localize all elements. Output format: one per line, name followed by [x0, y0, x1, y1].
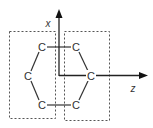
- z-axis-arrowhead-icon: [139, 72, 148, 79]
- benzene-axes-diagram: C C C C C C x z: [0, 0, 153, 128]
- bond-top-right: [79, 52, 88, 71]
- atom-c-right: C: [87, 70, 95, 82]
- bond-bottom-left: [31, 81, 39, 100]
- bond-top-left: [31, 52, 39, 71]
- atom-c-top-right: C: [72, 41, 80, 53]
- atom-c-top-left: C: [38, 41, 46, 53]
- atom-c-left: C: [24, 70, 32, 82]
- atom-c-bottom-right: C: [72, 99, 80, 111]
- z-axis-label: z: [130, 83, 136, 94]
- atom-c-bottom-left: C: [38, 99, 46, 111]
- x-axis-arrowhead-icon: [56, 9, 63, 18]
- bond-bottom-right: [79, 81, 88, 100]
- x-axis-label: x: [45, 18, 52, 29]
